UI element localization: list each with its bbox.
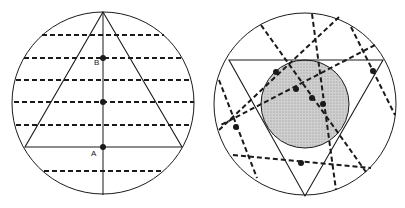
point-dot (320, 101, 326, 107)
point-dot (100, 144, 106, 150)
point-dot (293, 86, 299, 92)
point-dot (233, 124, 239, 130)
point-dot (273, 69, 279, 75)
point-label-b: B (94, 58, 99, 67)
point-dot (370, 68, 376, 74)
point-dot (309, 95, 315, 101)
figure: BA (0, 0, 405, 208)
diagram-canvas (0, 0, 405, 208)
point-label-a: A (91, 149, 96, 158)
point-dot (298, 160, 304, 166)
point-dot (100, 99, 106, 105)
right-panel (214, 13, 396, 196)
left-panel (12, 12, 194, 195)
point-dot (100, 55, 106, 61)
